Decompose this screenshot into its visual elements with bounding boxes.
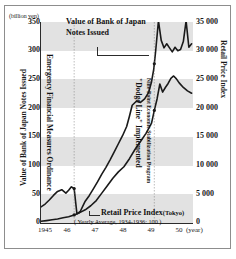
x-tick-46: 46 — [64, 226, 71, 234]
annotation-boj-leader-line — [97, 47, 149, 56]
y-tick-left-200: 200 — [28, 103, 40, 112]
annotation-dodge-subtitle: Nine-Point Economic Stabilization Progra… — [146, 78, 152, 183]
annotation-boj-notes: Value of Bank of Japan Notes Issued — [66, 16, 146, 38]
y-tick-right-25000: 25 000 — [196, 74, 218, 83]
annotation-rpi-subtitle: ( Yearly Average, 1934-1936: 100 ) — [74, 218, 161, 225]
x-tick-49: 49 — [148, 226, 155, 234]
y-tick-right-30000: 30 000 — [196, 45, 218, 54]
x-tick-48: 48 — [120, 226, 127, 234]
y-tick-left-150: 150 — [28, 131, 40, 140]
event-marker-dot-1-0 — [153, 62, 156, 65]
y-axis-title-right: Retail Price Index — [219, 40, 228, 98]
y-tick-left-350: 350 — [28, 17, 40, 26]
x-tick-47: 47 — [92, 226, 99, 234]
y-tick-right-35000: 35 000 — [196, 17, 218, 26]
annotation-rpi-city: (Tokyo) — [163, 209, 184, 216]
y-tick-left-250: 250 — [28, 74, 40, 83]
annotation-boj-line1: Value of Bank of Japan — [66, 16, 146, 27]
y-tick-left-300: 300 — [28, 45, 40, 54]
chart-figure: (billion yen) 350 300 250 200 150 100 50… — [0, 0, 236, 259]
y-tick-right-0: 0 — [196, 217, 200, 226]
y-tick-left-50: 50 — [32, 189, 40, 198]
annotation-boj-line2: Notes Issued — [66, 27, 146, 38]
x-axis-unit-label: (year) — [186, 226, 203, 234]
annotation-emergency-ordinance: Emergency Financial Measures Ordinance — [45, 54, 54, 191]
x-tick-1945: 1945 — [38, 226, 52, 234]
y-tick-left-100: 100 — [28, 160, 40, 169]
event-marker-dot-1-1 — [153, 109, 156, 112]
y-tick-right-15000: 15 000 — [196, 131, 218, 140]
event-marker-dot-0-0 — [73, 187, 76, 190]
y-tick-right-10000: 10 000 — [196, 160, 218, 169]
annotation-rpi-label: Retail Price Index — [101, 208, 163, 217]
y-axis-title-left: Value of Bank of Japan Notes Issued — [19, 69, 28, 186]
annotation-rpi-leader-line — [89, 211, 100, 216]
y-tick-right-20000: 20 000 — [196, 103, 218, 112]
event-marker-dot-0-1 — [73, 213, 76, 216]
annotation-retail-price-index: Retail Price Index(Tokyo) — [101, 208, 184, 217]
annotation-dodge-line: "Dodge Line" Implemented — [134, 78, 143, 168]
x-tick-50: 50 — [176, 226, 183, 234]
y-tick-right-5000: 5 000 — [196, 189, 214, 198]
